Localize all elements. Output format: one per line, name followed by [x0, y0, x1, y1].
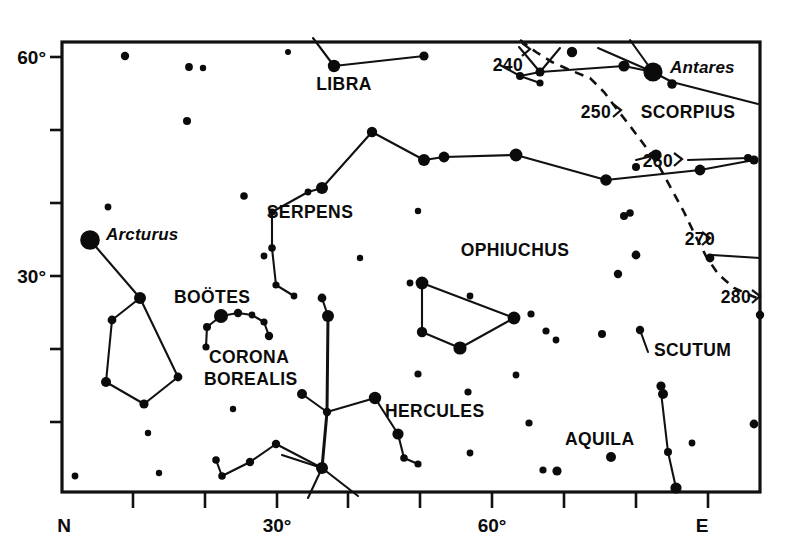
x-axis-ticks	[133, 492, 708, 508]
constellation-lines-ophiuchus-triangle	[422, 283, 514, 348]
star-chart-canvas: 60° 30° N 30° 60° E 240 250 260 270 280	[0, 0, 790, 552]
ecliptic-tick-marks	[522, 43, 760, 303]
y-axis-label-60: 60°	[17, 47, 46, 68]
constellation-label-corona: CORONA	[209, 347, 289, 367]
x-axis-label-30: 30°	[263, 515, 292, 536]
constellation-label-hercules: HERCULES	[385, 401, 484, 421]
y-axis-ticks	[50, 57, 62, 422]
x-axis-label-60: 60°	[478, 515, 507, 536]
constellation-lines-misc	[712, 255, 760, 258]
x-axis-label-e: E	[696, 515, 709, 536]
constellation-label-aquila: AQUILA	[565, 429, 634, 449]
constellation-label-bootes: BOÖTES	[174, 287, 250, 307]
star-chart: 60° 30° N 30° 60° E 240 250 260 270 280	[0, 0, 790, 552]
constellation-label-ophiuchus: OPHIUCHUS	[461, 240, 570, 260]
constellation-label-scorpius: SCORPIUS	[641, 102, 736, 122]
constellation-lines-aquila	[661, 392, 676, 488]
constellation-label-borealis: BOREALIS	[204, 369, 298, 389]
star-label-arcturus: Arcturus	[105, 225, 178, 244]
ecliptic-line	[520, 40, 760, 299]
ecliptic-marker-270: 270	[685, 229, 716, 249]
constellation-lines-lower-chain	[216, 444, 322, 476]
ecliptic-marker-240: 240	[493, 55, 524, 75]
ecliptic-marker-250: 250	[581, 102, 612, 122]
constellation-label-serpens: SERPENS	[267, 202, 353, 222]
constellation-label-scutum: SCUTUM	[654, 340, 731, 360]
constellation-label-libra: LIBRA	[316, 74, 371, 94]
star-label-antares: Antares	[669, 58, 735, 77]
ecliptic-marker-280: 280	[721, 287, 752, 307]
x-axis-label-n: N	[57, 515, 71, 536]
y-axis-label-30: 30°	[17, 266, 46, 287]
